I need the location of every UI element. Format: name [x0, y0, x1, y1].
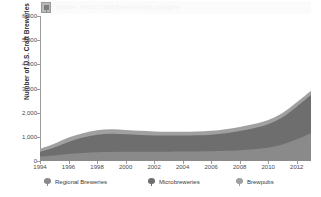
- x-tick-label: 2004: [176, 164, 189, 170]
- x-tick-group: 1994199619982000200220042006200820102012: [40, 161, 311, 175]
- y-tick-label: 3,000: [22, 86, 37, 92]
- legend-item-brewpubs[interactable]: Brewpubs: [236, 178, 274, 186]
- y-tick-label: 4,000: [22, 61, 37, 67]
- y-tick-label: 6,000: [22, 13, 37, 19]
- page-title: Number of U.S. Craft Breweries by Catego…: [56, 2, 306, 12]
- chart-container: Number of U.S. Craft Breweries by Catego…: [0, 0, 321, 197]
- x-tick-label: 2012: [290, 164, 303, 170]
- legend-label-microbreweries: Microbreweries: [159, 179, 200, 185]
- x-tick-label: 2008: [233, 164, 246, 170]
- legend-item-regional-breweries[interactable]: Regional Breweries: [44, 178, 107, 186]
- chart-badge-icon: [41, 2, 51, 13]
- microbreweries-marker-icon: [148, 178, 155, 186]
- legend-label-regional-breweries: Regional Breweries: [55, 179, 107, 185]
- x-tick-label: 1998: [90, 164, 103, 170]
- x-tick-label: 2002: [147, 164, 160, 170]
- regional-breweries-marker-icon: [44, 178, 51, 186]
- y-tick-label: 2,000: [22, 110, 37, 116]
- brewpubs-marker-icon: [236, 178, 243, 186]
- chart-legend: Regional Breweries Microbreweries Brewpu…: [0, 178, 321, 192]
- stacked-area-series: [40, 16, 311, 161]
- y-tick-label: 5,000: [22, 37, 37, 43]
- x-tick-label: 2006: [204, 164, 217, 170]
- x-tick-label: 1994: [33, 164, 46, 170]
- y-tick-label: 1,000: [22, 134, 37, 140]
- legend-label-brewpubs: Brewpubs: [247, 179, 274, 185]
- legend-item-microbreweries[interactable]: Microbreweries: [148, 178, 200, 186]
- x-tick-label: 2000: [119, 164, 132, 170]
- x-tick-label: 2010: [262, 164, 275, 170]
- x-tick-label: 1996: [62, 164, 75, 170]
